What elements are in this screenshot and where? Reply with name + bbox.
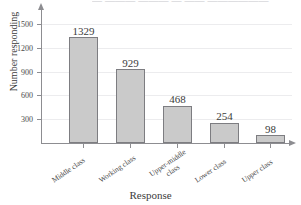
y-tick-mark-1500 <box>37 24 42 25</box>
bar-value-upper-class: 98 <box>246 123 295 135</box>
x-axis-arrow-icon <box>289 140 296 146</box>
x-category-label-middle-class: Middle class <box>50 156 87 185</box>
y-tick-mark-600 <box>37 95 42 96</box>
bar-value-middle-class: 1329 <box>59 25 108 37</box>
y-tick-mark-900 <box>37 72 42 73</box>
y-axis-title: Number responding <box>8 2 19 102</box>
bar-working-class <box>116 69 145 143</box>
bar-lower-class <box>210 123 239 143</box>
y-tick-mark-1200 <box>37 48 42 49</box>
x-category-label-lower-class: Lower class <box>193 157 228 185</box>
x-tick-mark-middle-class <box>83 144 84 148</box>
x-tick-mark-working-class <box>130 144 131 148</box>
bar-value-working-class: 929 <box>106 57 155 69</box>
x-tick-mark-upper-class <box>270 144 271 148</box>
y-tick-label-300: 300 <box>3 115 33 124</box>
bar-upper-middle-class <box>163 106 192 143</box>
chart-title-remnant: — ——— ——— — —— —————— <box>92 0 292 4</box>
y-tick-mark-300 <box>37 119 42 120</box>
bar-value-upper-middle-class: 468 <box>153 93 202 105</box>
bar-chart-figure: — ——— ——— — —— —————— 1500 1200 900 600 … <box>0 0 301 205</box>
x-axis-title: Response <box>0 189 301 201</box>
x-tick-mark-lower-class <box>224 144 225 148</box>
x-category-label-upper-class: Upper class <box>240 157 274 184</box>
x-tick-mark-upper-middle-class <box>177 144 178 148</box>
x-category-label-working-class: Working class <box>97 153 137 184</box>
bar-middle-class <box>69 37 98 143</box>
y-axis-line <box>41 9 42 144</box>
bar-value-lower-class: 254 <box>200 110 249 122</box>
x-axis-line <box>41 143 290 144</box>
bar-upper-class <box>256 135 285 143</box>
y-axis-arrow-icon <box>38 3 44 10</box>
x-category-label-upper-middle-class: Upper-middle class <box>146 146 194 187</box>
